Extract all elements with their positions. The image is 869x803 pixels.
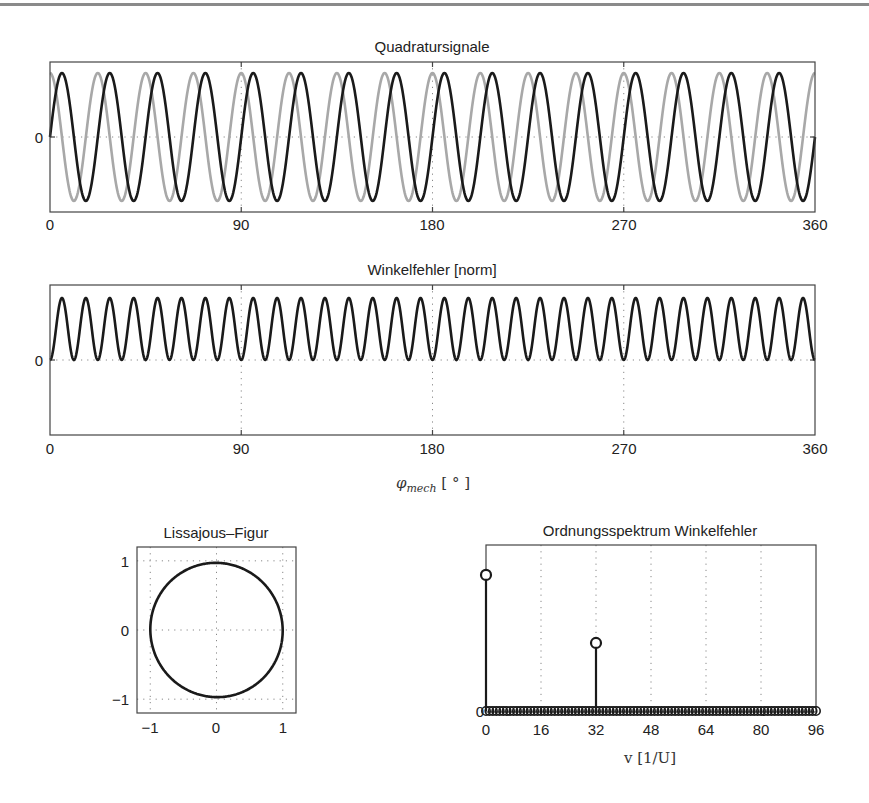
- figure-canvas: [0, 0, 869, 803]
- quad-ytick-0: 0: [35, 129, 43, 146]
- winkel-xtick-0: 0: [46, 440, 54, 457]
- winkel-xtick-90: 90: [233, 440, 250, 457]
- winkel-ytick-0: 0: [35, 352, 43, 369]
- quad-xtick-270: 270: [611, 216, 636, 233]
- liss-xtick-1: 1: [279, 719, 287, 736]
- spec-ytick-0: 0: [476, 703, 484, 720]
- spec-xtick-16: 16: [533, 721, 550, 738]
- liss-xtick-m1: −1: [141, 719, 158, 736]
- winkelfehler-axes: [50, 285, 815, 435]
- phi-unit: [ ° ]: [441, 474, 470, 492]
- spec-xtick-32: 32: [588, 721, 605, 738]
- lissajous-axes: [137, 547, 296, 713]
- phi-symbol: φ: [396, 474, 407, 492]
- spec-xtick-64: 64: [698, 721, 715, 738]
- quad-xtick-360: 360: [802, 216, 827, 233]
- liss-ytick-1: 1: [121, 553, 129, 570]
- quadratur-axes: [50, 62, 815, 212]
- winkel-xtick-270: 270: [611, 440, 636, 457]
- spectrum-xlabel: v [1/U]: [624, 749, 676, 767]
- phi-subscript: mech: [406, 482, 436, 495]
- spec-xtick-48: 48: [643, 721, 660, 738]
- quad-xtick-180: 180: [419, 216, 444, 233]
- phi-mech-xlabel: φmech [ ° ]: [396, 474, 470, 495]
- spec-xtick-80: 80: [753, 721, 770, 738]
- winkel-xtick-360: 360: [802, 440, 827, 457]
- spectrum-axes: [481, 545, 820, 715]
- spec-xtick-96: 96: [808, 721, 825, 738]
- quad-xtick-90: 90: [233, 216, 250, 233]
- liss-xtick-0: 0: [212, 719, 220, 736]
- quad-xtick-0: 0: [46, 216, 54, 233]
- spec-xtick-0: 0: [482, 721, 490, 738]
- winkel-xtick-180: 180: [419, 440, 444, 457]
- liss-ytick-0: 0: [121, 622, 129, 639]
- liss-ytick-m1: −1: [112, 691, 129, 708]
